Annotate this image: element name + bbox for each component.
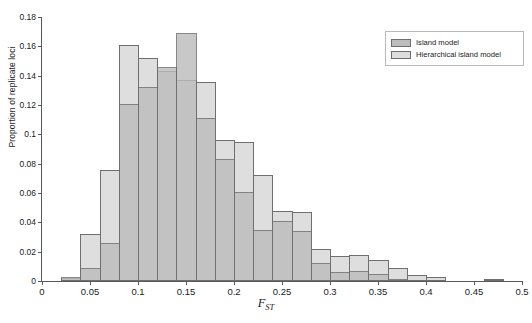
histogram-bar — [388, 279, 408, 281]
x-tick-mark — [282, 281, 283, 285]
y-tick-mark — [38, 252, 42, 253]
legend-item: Island model — [391, 37, 518, 48]
histogram-bar — [215, 159, 235, 281]
chart-legend: Island modelHierarchical island model — [385, 31, 524, 66]
histogram-bar — [330, 272, 350, 281]
x-tick-mark — [474, 281, 475, 285]
legend-swatch-island — [391, 39, 411, 47]
histogram-bar — [61, 277, 81, 281]
y-tick-label: 0.14 — [19, 71, 36, 80]
x-tick-label: 0.05 — [81, 287, 100, 297]
x-tick-label: 0.45 — [465, 287, 484, 297]
histogram-bar — [368, 274, 388, 281]
histogram-bar — [253, 230, 273, 281]
x-tick-mark — [330, 281, 331, 285]
y-tick-mark — [38, 105, 42, 106]
histogram-bar — [311, 263, 331, 281]
y-tick-label: 0 — [31, 277, 36, 286]
histogram-figure: Proportion of replicate loci FST 00.020.… — [0, 0, 532, 323]
y-tick-label: 0.06 — [19, 189, 36, 198]
y-tick-label: 0.04 — [19, 218, 36, 227]
x-tick-label: 0.2 — [227, 287, 240, 297]
histogram-bar — [407, 275, 427, 281]
histogram-bar — [349, 271, 369, 281]
x-axis-title: FST — [0, 296, 532, 312]
x-tick-label: 0.35 — [369, 287, 388, 297]
y-tick-mark — [38, 193, 42, 194]
histogram-bar — [176, 33, 196, 281]
x-tick-label: 0.25 — [273, 287, 292, 297]
y-axis-line — [41, 17, 42, 282]
y-tick-label: 0.1 — [24, 130, 36, 139]
legend-label: Island model — [416, 39, 459, 47]
histogram-bar — [80, 268, 100, 281]
histogram-bar — [157, 67, 177, 281]
x-tick-mark — [90, 281, 91, 285]
histogram-bar — [234, 192, 254, 281]
x-tick-mark — [42, 281, 43, 285]
legend-swatch-hier — [391, 51, 411, 59]
y-tick-mark — [38, 222, 42, 223]
histogram-bar — [196, 118, 216, 281]
x-tick-label: 0.3 — [323, 287, 336, 297]
y-tick-label: 0.12 — [19, 101, 36, 110]
histogram-bar — [138, 87, 158, 281]
x-tick-label: 0.4 — [419, 287, 432, 297]
x-axis-title-subscript: ST — [265, 302, 274, 312]
histogram-bar — [292, 231, 312, 281]
y-tick-mark — [38, 134, 42, 135]
x-tick-mark — [138, 281, 139, 285]
histogram-bar — [426, 277, 446, 281]
y-tick-label: 0.18 — [19, 13, 36, 22]
y-tick-mark — [38, 17, 42, 18]
y-tick-label: 0.08 — [19, 159, 36, 168]
x-tick-mark — [426, 281, 427, 285]
x-tick-label: 0.15 — [177, 287, 196, 297]
x-tick-mark — [186, 281, 187, 285]
y-axis-title: Proportion of replicate loci — [7, 27, 17, 167]
x-tick-label: 0 — [39, 287, 44, 297]
y-tick-label: 0.16 — [19, 42, 36, 51]
legend-item: Hierarchical island model — [391, 49, 518, 60]
histogram-bar — [484, 279, 504, 281]
x-tick-label: 0.1 — [131, 287, 144, 297]
x-tick-label: 0.5 — [515, 287, 528, 297]
y-tick-mark — [38, 46, 42, 47]
y-tick-label: 0.02 — [19, 247, 36, 256]
legend-label: Hierarchical island model — [416, 51, 501, 59]
y-tick-mark — [38, 76, 42, 77]
x-tick-mark — [378, 281, 379, 285]
histogram-bar — [272, 221, 292, 281]
x-tick-mark — [522, 281, 523, 285]
histogram-bar — [119, 104, 139, 281]
histogram-bar — [100, 243, 120, 281]
x-tick-mark — [234, 281, 235, 285]
y-tick-mark — [38, 164, 42, 165]
